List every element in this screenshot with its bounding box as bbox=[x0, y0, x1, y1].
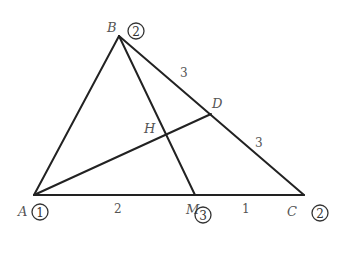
segment-bm bbox=[119, 36, 195, 195]
segment-ad bbox=[34, 114, 211, 195]
length-dc: 3 bbox=[255, 136, 263, 150]
point-label-d: D bbox=[211, 96, 223, 111]
point-label-h: H bbox=[143, 121, 156, 136]
segment-ab bbox=[34, 36, 119, 195]
weight-c: 2 bbox=[316, 207, 324, 221]
weight-b: 2 bbox=[132, 25, 140, 39]
length-bd: 3 bbox=[180, 66, 188, 80]
weight-badge-a: 1 bbox=[32, 204, 48, 220]
point-label-a: A bbox=[17, 204, 27, 219]
weight-badge-c: 2 bbox=[312, 205, 328, 221]
length-mc: 1 bbox=[242, 202, 250, 216]
weight-badge-b: 2 bbox=[128, 23, 144, 39]
segment-bc bbox=[119, 36, 304, 195]
triangle-diagram: A B C M D H 1 2 3 2 2 1 3 3 bbox=[0, 0, 349, 260]
length-am: 2 bbox=[114, 202, 122, 216]
point-label-c: C bbox=[287, 204, 297, 219]
weight-a: 1 bbox=[36, 206, 44, 220]
weight-m: 3 bbox=[199, 209, 207, 223]
point-label-b: B bbox=[106, 20, 117, 35]
